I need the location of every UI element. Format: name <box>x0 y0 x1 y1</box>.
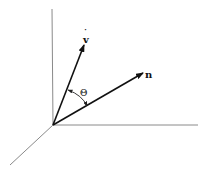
vector-v-arrow <box>53 45 84 125</box>
z-axis <box>52 9 53 125</box>
vector-n-label: n <box>145 69 153 80</box>
vector-v-label: v <box>82 34 90 45</box>
vector-diagram: ˙ v n Θ <box>0 0 208 171</box>
y-axis <box>10 125 53 165</box>
vector-n-arrow <box>53 73 143 125</box>
angle-theta-label: Θ <box>80 88 87 98</box>
